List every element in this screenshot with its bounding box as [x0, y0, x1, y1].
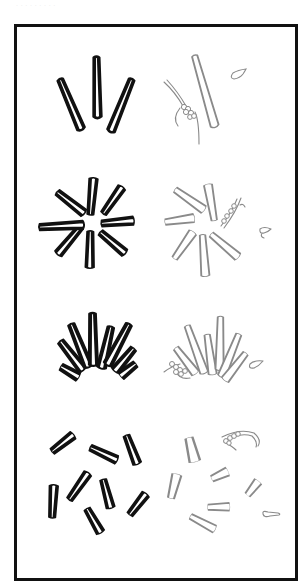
bead-cluster-icon: [181, 104, 196, 119]
panel-row2-right: [164, 183, 271, 277]
panel-row2-left: [39, 177, 135, 268]
panel-row1-left: [57, 57, 135, 134]
panel-row4-left: [49, 432, 149, 535]
curl-icon: [250, 361, 264, 368]
panel-row3-right: [164, 316, 263, 383]
curl-icon: [260, 228, 271, 239]
rod-illustration: [0, 0, 305, 588]
loop-icon: [263, 511, 280, 516]
panel-row1-right: [164, 54, 246, 144]
panel-row4-right: [166, 431, 279, 533]
bead-strand-icon: [224, 432, 241, 445]
panel-row3-left: [57, 313, 138, 380]
curl-icon: [231, 69, 246, 79]
